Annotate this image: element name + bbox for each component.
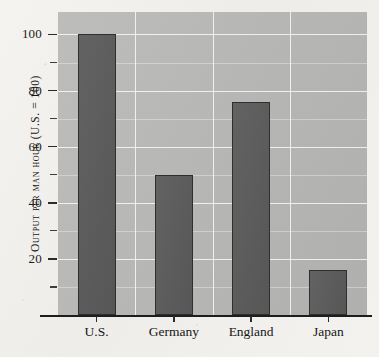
x-tick [173,316,175,322]
bar-england [232,102,270,315]
bar-u-s [78,34,116,315]
x-tick-label-japan: Japan [313,324,344,340]
y-tick-label: 40 [8,195,42,211]
y-axis-title: Output per man hour (U.S. = 100) [24,12,46,315]
y-tick-major [48,202,57,204]
x-axis-line [40,315,372,317]
bar-japan [309,270,347,315]
y-tick-label: 60 [8,139,42,155]
x-tick-label-germany: Germany [149,324,199,340]
y-tick-minor [50,174,57,175]
x-tick-label-england: England [229,324,274,340]
bar-chart-figure: Output per man hour (U.S. = 100) 2040608… [0,0,379,357]
y-tick-minor [50,286,57,287]
y-tick-label: 20 [8,251,42,267]
y-tick-major [48,146,57,148]
x-tick-label-u-s: U.S. [85,324,109,340]
x-tick [328,316,330,322]
gridline-v [135,12,136,315]
x-tick [250,316,252,322]
bar-germany [155,175,193,315]
y-tick-label: 100 [8,26,42,42]
x-tick [96,316,98,322]
y-tick-minor [50,62,57,63]
gridline-v [213,12,214,315]
y-tick-major [48,34,57,36]
y-tick-minor [50,118,57,119]
y-tick-major [48,90,57,92]
gridline-v [290,12,291,315]
y-tick-major [48,258,57,260]
y-tick-minor [50,230,57,231]
y-tick-label: 80 [8,83,42,99]
plot-area [58,12,367,315]
